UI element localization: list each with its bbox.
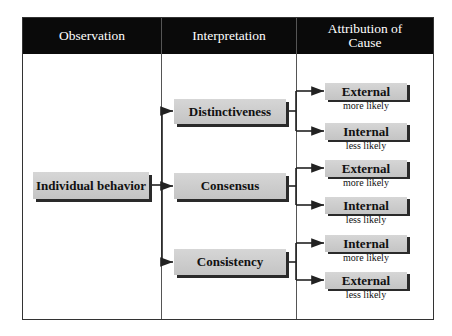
attribution-box: Internal: [325, 235, 407, 252]
attribution-box: External: [325, 272, 407, 289]
likelihood-label: less likely: [325, 140, 407, 151]
observation-box: Individual behavior: [33, 172, 149, 199]
likelihood-label: more likely: [325, 100, 407, 111]
likelihood-label: less likely: [325, 214, 407, 225]
attribution-box: External: [325, 83, 407, 100]
attribution-box: Internal: [325, 197, 407, 214]
interpretation-consistency: Consistency: [174, 249, 286, 275]
attribution-box: Internal: [325, 123, 407, 140]
likelihood-label: more likely: [325, 252, 407, 263]
likelihood-label: less likely: [325, 289, 407, 300]
interpretation-distinctiveness: Distinctiveness: [174, 99, 286, 124]
attribution-box: External: [325, 160, 407, 177]
interpretation-consensus: Consensus: [174, 173, 286, 199]
likelihood-label: more likely: [325, 177, 407, 188]
